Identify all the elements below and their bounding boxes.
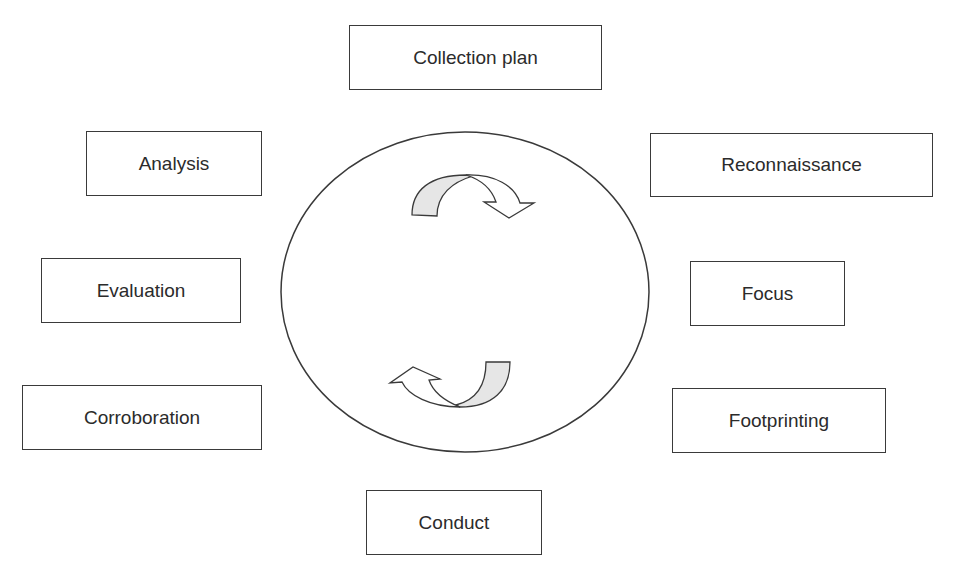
node-collection-plan: Collection plan (349, 25, 602, 90)
node-label: Evaluation (97, 280, 186, 302)
node-analysis: Analysis (86, 131, 262, 196)
node-conduct: Conduct (366, 490, 542, 555)
node-label: Analysis (139, 153, 210, 175)
node-label: Focus (742, 283, 794, 305)
node-label: Corroboration (84, 407, 200, 429)
node-footprinting: Footprinting (672, 388, 886, 453)
node-label: Collection plan (413, 47, 538, 69)
clockwise-top-arrow-icon (412, 175, 534, 218)
node-evaluation: Evaluation (41, 258, 241, 323)
node-focus: Focus (690, 261, 845, 326)
clockwise-bottom-arrow-icon (390, 362, 510, 407)
node-label: Reconnaissance (721, 154, 861, 176)
node-reconnaissance: Reconnaissance (650, 133, 933, 197)
node-corroboration: Corroboration (22, 385, 262, 450)
node-label: Conduct (419, 512, 490, 534)
node-label: Footprinting (729, 410, 829, 432)
